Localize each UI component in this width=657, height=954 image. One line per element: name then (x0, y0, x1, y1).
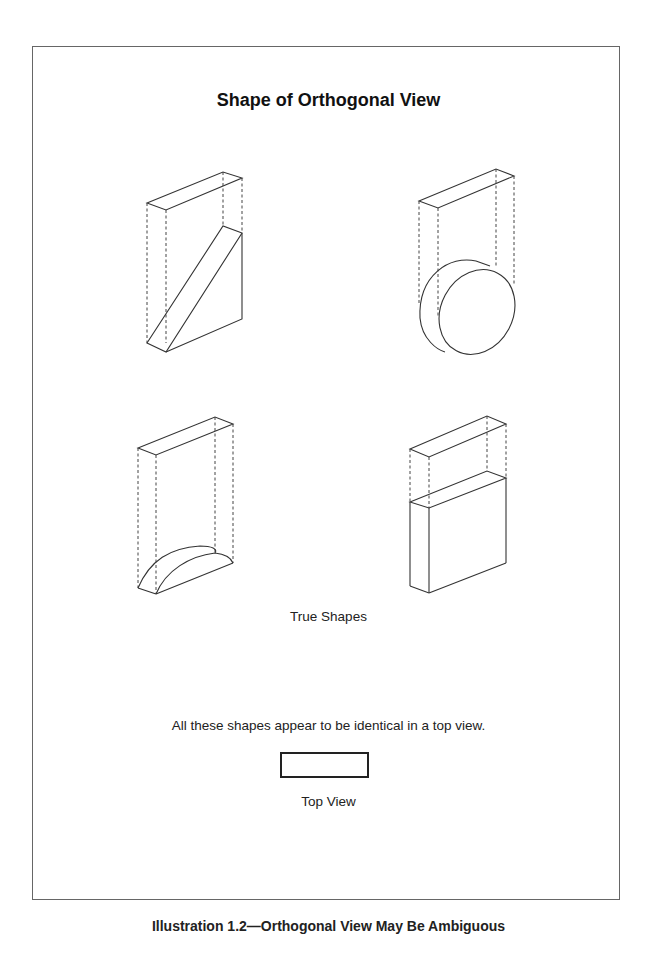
half-round-shape (138, 417, 233, 594)
top-view-label: Top View (0, 794, 657, 809)
true-shapes-label: True Shapes (0, 609, 657, 624)
shapes-diagram (0, 0, 657, 954)
disc-shape (419, 169, 529, 368)
slab-shape (410, 416, 506, 593)
wedge-shape (147, 172, 242, 352)
figure-caption: Illustration 1.2—Orthogonal View May Be … (0, 918, 657, 934)
statement-text: All these shapes appear to be identical … (0, 718, 657, 733)
top-view-rectangle (280, 752, 369, 778)
